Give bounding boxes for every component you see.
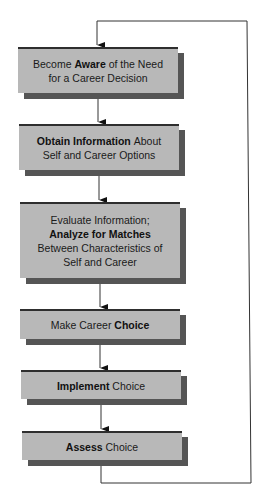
step-text: Choice <box>109 380 145 392</box>
step-text-line: Obtain Information About <box>37 134 161 148</box>
keyword-text: Choice <box>114 319 149 331</box>
step-box-choice: Make Career Choice <box>20 309 180 339</box>
step-text: Evaluate Information; <box>50 214 149 226</box>
step-text-line: Between Characteristics of <box>38 241 163 255</box>
step-text-line: Self and Career Options <box>37 148 161 162</box>
step-text: About <box>131 135 161 147</box>
keyword-text: Aware <box>74 58 105 70</box>
step-text: Choice <box>103 441 139 453</box>
step-text-line: Self and Career <box>38 255 163 269</box>
step-text: Make Career <box>51 319 115 331</box>
step-text: Self and Career Options <box>43 149 156 161</box>
step-text: Self and Career <box>63 256 137 268</box>
step-text-line: Assess Choice <box>66 440 138 454</box>
step-text-line: for a Career Decision <box>33 71 163 85</box>
step-text: Between Characteristics of <box>38 242 163 254</box>
keyword-text: Obtain Information <box>37 135 131 147</box>
step-box-obtain: Obtain Information AboutSelf and Career … <box>19 124 179 170</box>
step-text-line: Make Career Choice <box>51 318 150 332</box>
step-box-assess: Assess Choice <box>22 431 182 460</box>
step-text-line: Become Aware of the Need <box>33 57 163 71</box>
step-text: Become <box>33 58 74 70</box>
step-text-line: Evaluate Information; <box>38 213 163 227</box>
step-box-implement: Implement Choice <box>21 370 181 399</box>
step-box-aware: Become Aware of the Needfor a Career Dec… <box>18 47 178 93</box>
keyword-text: Assess <box>66 441 103 453</box>
keyword-text: Analyze for Matches <box>49 228 151 240</box>
keyword-text: Implement <box>57 380 110 392</box>
step-box-analyze: Evaluate Information;Analyze for Matches… <box>20 202 180 278</box>
step-text-line: Analyze for Matches <box>38 227 163 241</box>
step-text: for a Career Decision <box>48 72 147 84</box>
step-text-line: Implement Choice <box>57 379 145 393</box>
step-text: of the Need <box>106 58 163 70</box>
